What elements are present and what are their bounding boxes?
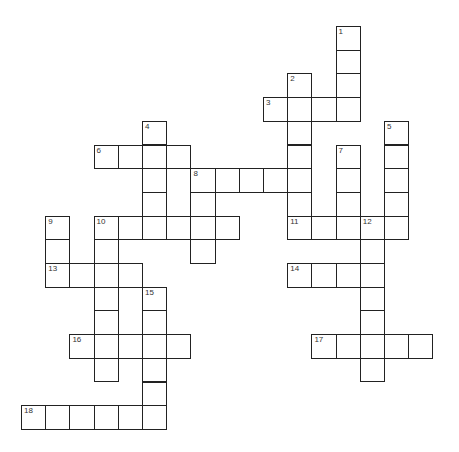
clue-number: 6 — [97, 147, 101, 155]
crossword-cell[interactable]: 12 — [360, 216, 385, 241]
clue-number: 13 — [48, 265, 57, 273]
crossword-cell[interactable] — [69, 405, 94, 430]
crossword-cell[interactable] — [118, 405, 143, 430]
crossword-cell[interactable] — [94, 287, 119, 312]
crossword-cell[interactable] — [287, 168, 312, 193]
clue-number: 18 — [24, 407, 33, 415]
clue-number: 3 — [266, 99, 270, 107]
crossword-cell[interactable]: 1 — [336, 26, 361, 51]
crossword-cell[interactable] — [287, 121, 312, 146]
crossword-cell[interactable] — [408, 334, 433, 359]
crossword-cell[interactable] — [287, 145, 312, 170]
crossword-cell[interactable] — [69, 263, 94, 288]
crossword-cell[interactable] — [142, 310, 167, 335]
clue-number: 1 — [339, 28, 343, 36]
crossword-cell[interactable]: 15 — [142, 287, 167, 312]
crossword-cell[interactable] — [263, 168, 288, 193]
crossword-cell[interactable]: 17 — [311, 334, 336, 359]
crossword-cell[interactable]: 3 — [263, 97, 288, 122]
crossword-cell[interactable] — [190, 192, 215, 217]
crossword-cell[interactable] — [94, 239, 119, 264]
clue-number: 14 — [290, 265, 299, 273]
crossword-cell[interactable]: 5 — [384, 121, 409, 146]
crossword-cell[interactable] — [190, 239, 215, 264]
crossword-grid: 121134567891310121415161718 — [0, 0, 459, 452]
clue-number: 2 — [290, 75, 294, 83]
crossword-cell[interactable] — [360, 239, 385, 264]
crossword-cell[interactable] — [360, 334, 385, 359]
crossword-cell[interactable] — [142, 382, 167, 407]
crossword-cell[interactable] — [94, 334, 119, 359]
crossword-cell[interactable]: 6 — [94, 145, 119, 170]
crossword-cell[interactable]: 10 — [94, 216, 119, 241]
crossword-cell[interactable]: 9 — [45, 216, 70, 241]
clue-number: 10 — [97, 218, 106, 226]
crossword-cell[interactable]: 7 — [336, 145, 361, 170]
clue-number: 7 — [339, 147, 343, 155]
clue-number: 8 — [193, 170, 197, 178]
crossword-cell[interactable]: 16 — [69, 334, 94, 359]
crossword-cell[interactable] — [336, 334, 361, 359]
crossword-cell[interactable] — [215, 216, 240, 241]
crossword-cell[interactable] — [239, 168, 264, 193]
crossword-cell[interactable] — [142, 145, 167, 170]
crossword-cell[interactable] — [94, 358, 119, 383]
crossword-cell[interactable] — [166, 216, 191, 241]
clue-number: 9 — [48, 218, 52, 226]
crossword-cell[interactable]: 13 — [45, 263, 70, 288]
crossword-cell[interactable] — [142, 216, 167, 241]
crossword-cell[interactable]: 2 — [287, 73, 312, 98]
crossword-cell[interactable] — [336, 216, 361, 241]
clue-number: 15 — [145, 289, 154, 297]
crossword-cell[interactable] — [166, 145, 191, 170]
crossword-cell[interactable]: 18 — [21, 405, 46, 430]
crossword-cell[interactable]: 11 — [287, 216, 312, 241]
crossword-cell[interactable] — [360, 263, 385, 288]
crossword-cell[interactable] — [287, 192, 312, 217]
clue-number: 17 — [314, 336, 323, 344]
crossword-cell[interactable] — [384, 145, 409, 170]
crossword-cell[interactable] — [311, 263, 336, 288]
crossword-cell[interactable] — [384, 192, 409, 217]
crossword-cell[interactable]: 4 — [142, 121, 167, 146]
crossword-cell[interactable] — [336, 50, 361, 75]
crossword-cell[interactable] — [94, 263, 119, 288]
crossword-cell[interactable] — [190, 216, 215, 241]
crossword-cell[interactable] — [360, 287, 385, 312]
crossword-cell[interactable] — [384, 168, 409, 193]
crossword-cell[interactable] — [45, 405, 70, 430]
crossword-cell[interactable]: 14 — [287, 263, 312, 288]
crossword-cell[interactable]: 8 — [190, 168, 215, 193]
crossword-cell[interactable] — [142, 358, 167, 383]
crossword-cell[interactable] — [360, 310, 385, 335]
crossword-cell[interactable] — [142, 168, 167, 193]
crossword-cell[interactable] — [336, 263, 361, 288]
crossword-cell[interactable] — [360, 358, 385, 383]
clue-number: 11 — [290, 218, 298, 226]
clue-number: 4 — [145, 123, 149, 131]
crossword-cell[interactable] — [142, 334, 167, 359]
crossword-cell[interactable] — [166, 334, 191, 359]
crossword-cell[interactable] — [336, 73, 361, 98]
crossword-cell[interactable] — [94, 405, 119, 430]
crossword-cell[interactable] — [311, 97, 336, 122]
crossword-cell[interactable] — [311, 216, 336, 241]
crossword-cell[interactable] — [336, 192, 361, 217]
crossword-cell[interactable] — [94, 310, 119, 335]
clue-number: 12 — [363, 218, 372, 226]
crossword-cell[interactable] — [336, 168, 361, 193]
crossword-cell[interactable] — [384, 216, 409, 241]
crossword-cell[interactable] — [118, 216, 143, 241]
crossword-cell[interactable] — [215, 168, 240, 193]
crossword-cell[interactable] — [118, 145, 143, 170]
crossword-cell[interactable] — [384, 334, 409, 359]
crossword-cell[interactable] — [45, 239, 70, 264]
crossword-cell[interactable] — [336, 97, 361, 122]
crossword-cell[interactable] — [118, 263, 143, 288]
clue-number: 16 — [72, 336, 81, 344]
crossword-cell[interactable] — [142, 405, 167, 430]
crossword-cell[interactable] — [142, 192, 167, 217]
crossword-cell[interactable] — [118, 334, 143, 359]
clue-number: 5 — [387, 123, 391, 131]
crossword-cell[interactable] — [287, 97, 312, 122]
